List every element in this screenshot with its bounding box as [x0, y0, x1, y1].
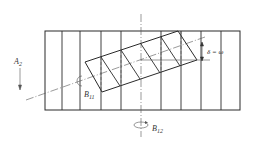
b11-label: B11: [84, 90, 94, 100]
a2-label: A2: [13, 57, 22, 67]
a2-arrow-icon: [19, 68, 22, 90]
b12-label: B12: [152, 124, 163, 134]
diagram: δ = ω A2 B11 B12: [0, 0, 254, 149]
delta-label: δ = ω: [207, 48, 223, 56]
tilted-axis: [26, 37, 205, 100]
